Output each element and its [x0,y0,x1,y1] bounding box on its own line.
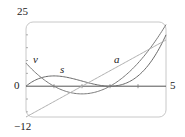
curve-a [26,40,166,117]
axes [26,35,166,112]
x-max-label: 5 [170,80,176,91]
x-origin-label: 0 [14,80,20,91]
curve-label-s: s [60,64,64,75]
curve-label-a: a [114,54,120,65]
curve-label-v: v [33,54,38,65]
y-min-label: −12 [14,121,31,132]
curve-v [26,25,166,94]
y-max-label: 25 [17,6,28,17]
chart-plot [0,0,185,137]
curves [26,25,166,117]
